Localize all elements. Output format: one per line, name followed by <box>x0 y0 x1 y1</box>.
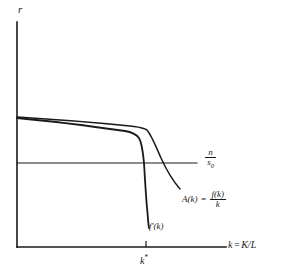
x-axis-label-expression: K/L <box>241 239 256 250</box>
curve-label-denominator: k <box>214 200 222 209</box>
economics-figure: r k=K/L k* f'(k) A(k) = f(k) k n s0 <box>0 0 282 274</box>
curve-label-fraction: f(k) k <box>210 190 227 210</box>
x-axis-label: k=K/L <box>228 240 256 250</box>
ns-fraction: n s0 <box>205 148 216 170</box>
x-tick-label-superscript: * <box>144 254 148 262</box>
curve-label-average-product: A(k) = f(k) k <box>182 190 226 210</box>
ns-numerator: n <box>206 148 215 157</box>
curve-label-numerator: f(k) <box>210 190 227 199</box>
y-axis-label: r <box>18 4 22 15</box>
curve-marginal-product <box>17 118 149 228</box>
curve-label-lhs: A(k) <box>182 195 198 204</box>
ns-denominator-subscript: 0 <box>211 162 214 169</box>
ns-denominator: s0 <box>205 158 216 170</box>
x-tick-label-kstar: k* <box>140 255 148 266</box>
plot-canvas <box>0 0 282 274</box>
reference-line-label-n-over-s0: n s0 <box>205 148 216 170</box>
curve-label-equals: = <box>200 195 208 204</box>
x-axis-label-equals: = <box>232 239 241 250</box>
curve-label-marginal-product: f'(k) <box>149 222 163 231</box>
